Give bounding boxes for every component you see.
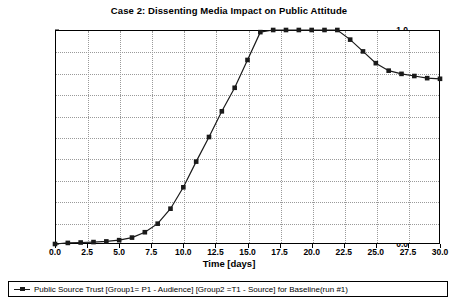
legend-marker-icon [14,284,30,294]
data-point-marker [220,109,225,114]
data-point-marker [374,61,379,66]
data-point-marker [258,30,263,35]
legend-label: Public Source Trust [Group1= P1 - Audien… [34,285,348,294]
data-point-marker [53,242,58,247]
data-point-marker [104,239,109,244]
data-point-marker [348,37,353,42]
data-point-marker [309,28,314,33]
data-point-marker [245,58,250,63]
data-point-marker [284,28,289,33]
data-point-marker [181,185,186,190]
data-point-marker [78,240,83,245]
data-point-marker [66,241,71,246]
data-point-marker [194,159,199,164]
data-point-marker [335,28,340,33]
data-point-marker [168,206,173,211]
data-point-marker [438,76,443,81]
chart-legend: Public Source Trust [Group1= P1 - Audien… [8,281,448,297]
data-point-marker [117,238,122,243]
data-point-marker [425,76,430,81]
data-series-layer [0,0,458,303]
data-point-marker [412,74,417,79]
data-point-marker [361,49,366,54]
data-point-marker [130,235,135,240]
data-point-marker [297,28,302,33]
data-point-marker [386,68,391,73]
data-point-marker [207,135,212,140]
data-point-marker [143,230,148,235]
chart-root: Case 2: Dissenting Media Impact on Publi… [0,0,458,303]
data-point-marker [232,85,237,90]
data-point-marker [271,28,276,33]
data-point-marker [399,72,404,77]
data-point-marker [155,221,160,226]
data-point-marker [91,240,96,245]
data-point-marker [322,28,327,33]
